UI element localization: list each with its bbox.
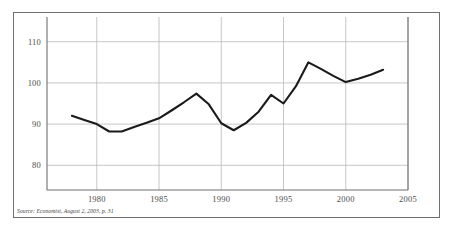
y-tick-80: 80 xyxy=(9,160,41,170)
x-tick-1990: 1990 xyxy=(201,194,241,204)
x-tick-2005: 2005 xyxy=(388,194,428,204)
x-tick-2000: 2000 xyxy=(326,194,366,204)
source-citation: Source: Economist, August 2, 2003, p. 31 xyxy=(17,208,114,214)
x-tick-1985: 1985 xyxy=(139,194,179,204)
y-tick-110: 110 xyxy=(9,37,41,47)
y-tick-90: 90 xyxy=(9,119,41,129)
chart-figure-frame xyxy=(13,12,440,218)
x-tick-1980: 1980 xyxy=(77,194,117,204)
x-tick-1995: 1995 xyxy=(264,194,304,204)
y-tick-100: 100 xyxy=(9,78,41,88)
